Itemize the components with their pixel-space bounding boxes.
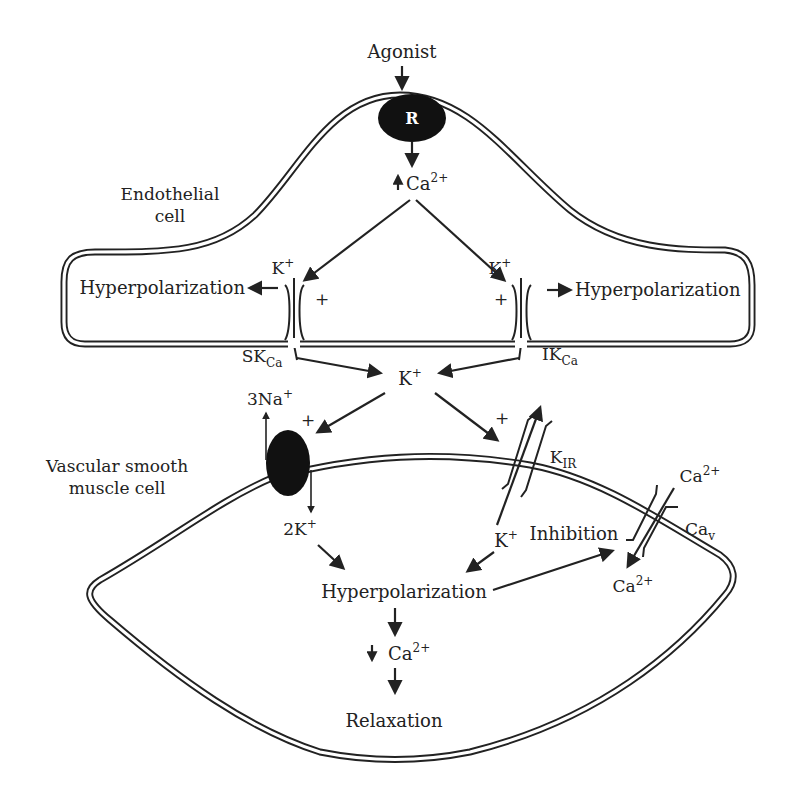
relaxation-label: Relaxation <box>346 710 443 731</box>
ikca-k-ion: K+ <box>489 256 512 278</box>
receptor-label: R <box>405 109 419 128</box>
na-k-pump-icon <box>266 430 310 496</box>
hyperpolarization-to-inhibition-arrow <box>493 551 612 590</box>
endothelial-cell-label-line1: Endothelial <box>121 184 220 204</box>
interstitial-k-ion: K+ <box>398 366 422 389</box>
pump-to-hyperpolarization-arrow <box>318 545 343 568</box>
k-in-label: 2K+ <box>283 517 317 539</box>
pathway-diagram: Agonist R Ca2+ Endothelial cell K+ + SKC… <box>0 0 804 797</box>
kir-to-hyperpolarization-arrow <box>468 552 494 571</box>
skca-plus: + <box>315 289 329 309</box>
inhibition-label: Inhibition <box>530 523 619 544</box>
k-to-kir-arrow <box>435 393 497 440</box>
svg-text:Ca2+: Ca2+ <box>406 171 448 194</box>
na-out-label: 3Na+ <box>247 387 293 409</box>
left-hyperpolarization-label: Hyperpolarization <box>80 277 246 298</box>
diagram-canvas: Agonist R Ca2+ Endothelial cell K+ + SKC… <box>0 0 804 797</box>
k-to-pump-arrow <box>318 393 385 432</box>
ikca-label: IKCa <box>542 344 578 368</box>
endothelial-cell-label-line2: cell <box>155 206 185 226</box>
svg-text:Ca2+: Ca2+ <box>388 641 430 664</box>
smooth-muscle-label-line2: muscle cell <box>69 478 166 498</box>
right-hyperpolarization-label: Hyperpolarization <box>575 279 741 300</box>
agonist-label: Agonist <box>366 41 437 62</box>
skca-label: SKCa <box>242 346 283 370</box>
ikca-efflux-arrow <box>440 358 519 373</box>
pump-plus: + <box>301 410 315 430</box>
skca-k-ion: K+ <box>272 256 295 278</box>
ca-to-skca-arrow <box>305 200 410 280</box>
ca-increase-label: Ca2+ <box>398 171 448 194</box>
cav-ca-in: Ca2+ <box>613 574 654 596</box>
ikca-plus: + <box>494 289 508 309</box>
smooth-muscle-label-line1: Vascular smooth <box>45 456 188 476</box>
cav-ca-out: Ca2+ <box>680 464 721 486</box>
kir-k-ion: K+ <box>494 528 518 551</box>
kir-plus: + <box>495 408 509 428</box>
skca-channel <box>285 278 304 360</box>
skca-efflux-arrow <box>297 358 380 373</box>
ikca-channel <box>512 278 531 360</box>
smc-hyperpolarization-label: Hyperpolarization <box>321 581 487 602</box>
ca-decrease-label: Ca2+ <box>372 641 430 664</box>
